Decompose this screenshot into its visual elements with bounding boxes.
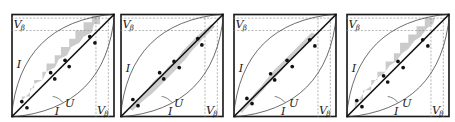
label-beta-bottom: β <box>103 109 108 118</box>
diagonal-line <box>12 14 115 117</box>
panel-3-diagram: U I I V β V β <box>233 14 337 117</box>
label-u: U <box>402 96 412 110</box>
label-u: U <box>289 96 299 110</box>
label-i-left: I <box>351 61 357 75</box>
label-beta-bottom: β <box>438 109 443 118</box>
diagonal-line <box>347 14 450 117</box>
panel-4-diagram: U I I V β V β <box>346 14 450 117</box>
panel-1: U I I V β V β <box>11 14 115 117</box>
diagonal-line <box>234 14 337 117</box>
u-pointer-line <box>162 96 172 102</box>
panel-4: U I I V β V β <box>346 14 450 117</box>
label-i-bottom: I <box>167 104 173 118</box>
label-beta-bottom: β <box>325 109 330 118</box>
shaded-region <box>129 24 216 111</box>
label-beta-top: β <box>242 23 247 32</box>
label-beta-top: β <box>20 23 25 32</box>
u-pointer-line <box>275 96 285 102</box>
diagonal-line <box>121 14 224 117</box>
u-pointer-line <box>53 96 63 102</box>
label-i-left: I <box>16 57 22 71</box>
label-beta-bottom: β <box>212 109 217 118</box>
label-u: U <box>174 96 184 110</box>
panel-3: U I I V β V β <box>233 14 337 117</box>
panel-2: U I I V β V β <box>120 14 224 117</box>
panel-2-diagram: U I I V β V β <box>120 14 224 117</box>
label-i-bottom: I <box>280 104 286 118</box>
label-i-left: I <box>238 61 244 75</box>
shaded-region <box>355 18 435 109</box>
panel-1-diagram: U I I V β V β <box>11 14 115 117</box>
label-beta-top: β <box>355 23 360 32</box>
u-pointer-line <box>388 96 398 102</box>
label-beta-top: β <box>129 23 134 32</box>
label-i-bottom: I <box>393 104 399 118</box>
label-i-left: I <box>125 61 131 75</box>
label-i-bottom: I <box>54 104 60 118</box>
label-u: U <box>65 96 75 110</box>
